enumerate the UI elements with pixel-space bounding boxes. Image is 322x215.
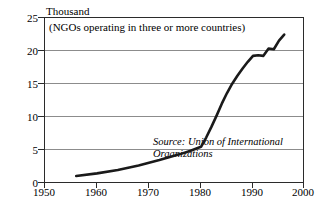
y-tick-label-25: 25	[14, 13, 38, 24]
x-tick-label-1990: 1990	[235, 187, 269, 198]
y-tick-label-10: 10	[14, 112, 38, 123]
plot-area: (NGOs operating in three or more countri…	[44, 17, 304, 183]
x-tick-label-1950: 1950	[27, 187, 61, 198]
y-tick-label-15: 15	[14, 79, 38, 90]
y-axis-unit-label: Thousand	[46, 5, 89, 17]
x-tick-label-1970: 1970	[131, 187, 165, 198]
y-tick-label-5: 5	[14, 145, 38, 156]
x-tick-label-1960: 1960	[79, 187, 113, 198]
x-tick-label-1980: 1980	[183, 187, 217, 198]
data-series-line	[45, 18, 304, 183]
x-tick-label-2000: 2000	[286, 187, 320, 198]
ngo-growth-chart: Thousand 25 20 15 10 5 0 (NGOs operating…	[0, 0, 322, 215]
y-tick-label-20: 20	[14, 46, 38, 57]
